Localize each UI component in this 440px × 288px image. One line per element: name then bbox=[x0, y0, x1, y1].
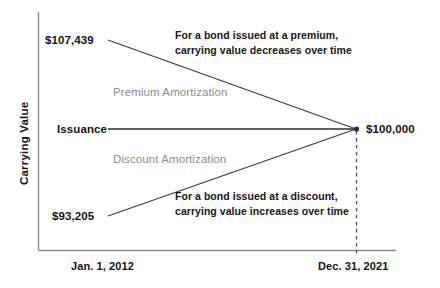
discount-start-value-label: $93,205 bbox=[52, 209, 94, 224]
x-axis-tick-label-left: Jan. 1, 2012 bbox=[71, 259, 134, 274]
issuance-label: Issuance bbox=[57, 122, 107, 137]
x-axis-tick-label-right: Dec. 31, 2021 bbox=[318, 259, 388, 274]
discount-note-line-1: For a bond issued at a discount, bbox=[175, 190, 338, 204]
discount-amortization-band-label: Discount Amortization bbox=[113, 152, 226, 167]
premium-note-line-2: carrying value decreases over time bbox=[175, 44, 352, 58]
discount-note-line-2: carrying value increases over time bbox=[175, 205, 349, 219]
maturity-point-marker bbox=[354, 126, 359, 131]
bond-carrying-value-chart: Carrying Value $107,439 Issuance $93,205… bbox=[0, 0, 440, 288]
y-axis-title: Carrying Value bbox=[18, 102, 30, 185]
premium-note-line-1: For a bond issued at a premium, bbox=[175, 29, 338, 43]
maturity-value-label: $100,000 bbox=[366, 122, 415, 137]
premium-start-value-label: $107,439 bbox=[45, 33, 94, 48]
premium-amortization-band-label: Premium Amortization bbox=[113, 85, 227, 100]
